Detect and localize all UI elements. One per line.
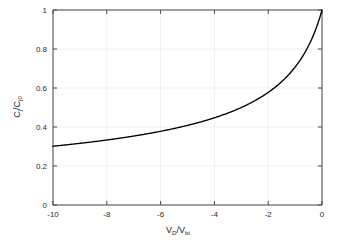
figure-canvas: -10-8-6-4-20 00.20.40.60.81 VD/Vbi Cj/Cj… bbox=[0, 0, 346, 244]
y-tick-label: 0 bbox=[43, 201, 48, 210]
label-main: /V bbox=[177, 225, 186, 235]
y-tick-label: 1 bbox=[43, 6, 48, 15]
x-tick-label: -8 bbox=[103, 210, 111, 219]
x-tick-label: -4 bbox=[211, 210, 219, 219]
x-tick-label: -6 bbox=[157, 210, 165, 219]
y-tick-label: 0.8 bbox=[36, 45, 48, 54]
label-subscript: bi bbox=[185, 229, 190, 236]
y-tick-label: 0.4 bbox=[36, 123, 48, 132]
chart-background bbox=[0, 0, 346, 244]
x-tick-label: -2 bbox=[265, 210, 273, 219]
capacitance-ratio-chart: -10-8-6-4-20 00.20.40.60.81 VD/Vbi Cj/Cj… bbox=[0, 0, 346, 244]
label-subscript: j0 bbox=[16, 96, 23, 102]
x-tick-label: -10 bbox=[47, 210, 59, 219]
y-tick-label: 0.2 bbox=[36, 162, 48, 171]
x-tick-label: 0 bbox=[320, 210, 325, 219]
y-tick-label: 0.6 bbox=[36, 84, 48, 93]
